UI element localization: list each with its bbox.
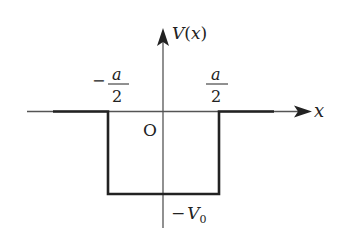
y-axis-label: V(x) [172,23,207,43]
fraction-denominator: 2 [211,87,221,106]
right-edge-label: a 2 [206,65,228,106]
depth-label: −V0 [171,203,207,226]
x-axis-label: x [314,100,324,121]
minus-sign: − [92,71,105,90]
potential-well-diagram: V(x) x O − a 2 a 2 −V0 [0,0,344,242]
fraction-numerator: a [112,65,122,84]
left-edge-label: − a 2 [92,65,129,106]
fraction-denominator: 2 [112,87,122,106]
fraction-numerator: a [211,65,221,84]
origin-label: O [143,120,157,140]
